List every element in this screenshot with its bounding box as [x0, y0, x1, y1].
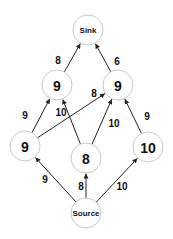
node-sink: Sink [73, 15, 103, 45]
edge-capacity-label: 9 [42, 174, 48, 185]
edge-right-to-upper-right [125, 99, 142, 134]
node-middle: 8 [71, 143, 101, 173]
node-upper-right: 9 [103, 70, 133, 100]
edge-left-to-upper-right [38, 94, 106, 138]
edge-left-to-upper-left [32, 99, 50, 133]
arrow-icon [64, 44, 80, 72]
node-label: 9 [21, 139, 29, 155]
edge-capacity-label: 9 [22, 110, 28, 121]
edge-capacity-label: 10 [108, 118, 120, 129]
node-label: Source [72, 209, 100, 218]
flow-network-diagram: 9810981010986 Sink999810Source [0, 0, 173, 239]
node-label: 10 [140, 140, 156, 156]
node-label: 8 [82, 151, 90, 167]
edge-capacity-label: 8 [55, 55, 61, 66]
edge-capacity-label: 8 [78, 181, 84, 192]
node-label: 9 [53, 78, 61, 94]
arrow-icon [32, 99, 50, 133]
edge-capacity-label: 9 [144, 111, 150, 122]
node-label: 9 [114, 78, 122, 94]
node-right: 10 [133, 132, 163, 162]
edge-upper-left-to-sink [64, 44, 80, 72]
node-label: Sink [80, 26, 97, 35]
node-upper-left: 9 [42, 70, 72, 100]
edge-capacity-label: 10 [55, 107, 67, 118]
edge-capacity-label: 6 [114, 56, 120, 67]
edge-capacity-label: 8 [91, 88, 97, 99]
edges-layer [32, 44, 142, 203]
node-left: 9 [10, 131, 40, 161]
arrow-icon [95, 44, 110, 72]
node-source: Source [71, 198, 101, 228]
arrow-icon [38, 94, 106, 138]
edge-capacity-label: 10 [116, 181, 128, 192]
arrow-icon [125, 99, 142, 134]
edge-upper-right-to-sink [95, 44, 110, 72]
